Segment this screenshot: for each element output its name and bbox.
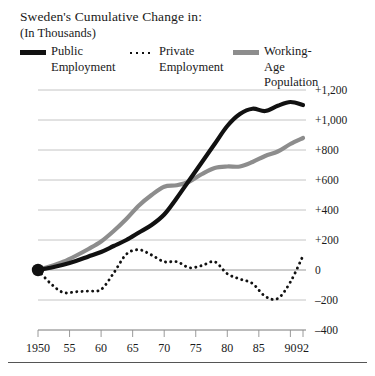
chart-x-axis-ticks (38, 330, 303, 337)
line-chart-svg: +1,200+1,000+800+600+400+2000–200–400 19… (0, 0, 375, 376)
x-axis-tick-label: 80 (221, 341, 233, 355)
x-axis-tick-label: 90 (284, 341, 296, 355)
y-axis-tick-label: –200 (314, 294, 338, 306)
chart-origin-marker (32, 264, 44, 276)
y-axis-tick-label: +400 (315, 204, 339, 216)
y-axis-tick-label: 0 (315, 264, 321, 276)
x-axis-tick-label: 70 (158, 341, 170, 355)
y-axis-tick-label: –400 (314, 324, 338, 336)
y-axis-tick-label: +800 (315, 144, 339, 156)
x-axis-tick-label: 85 (253, 341, 265, 355)
chart-x-axis-labels: 1950556065707580859092 (26, 341, 309, 355)
chart-y-axis-labels: +1,200+1,000+800+600+400+2000–200–400 (314, 84, 348, 336)
origin-marker-dot (32, 264, 44, 276)
chart-page: Sweden's Cumulative Change in: (In Thous… (0, 0, 375, 376)
x-axis-tick-label: 1950 (26, 341, 50, 355)
x-axis-tick-label: 65 (127, 341, 139, 355)
y-axis-tick-label: +600 (315, 174, 339, 186)
footer-divider (8, 362, 367, 363)
x-axis-tick-label: 55 (64, 341, 76, 355)
chart-gridlines (38, 90, 306, 330)
y-axis-tick-label: +1,200 (315, 84, 348, 97)
chart-plot-area: +1,200+1,000+800+600+400+2000–200–400 19… (0, 0, 375, 376)
x-axis-tick-label: 75 (190, 341, 202, 355)
chart-series-layer (38, 102, 306, 330)
series-line-private-employment (38, 250, 303, 300)
x-axis-tick-label: 60 (95, 341, 107, 355)
y-axis-tick-label: +1,000 (315, 114, 348, 127)
x-axis-tick-label: 92 (297, 341, 309, 355)
y-axis-tick-label: +200 (315, 234, 339, 246)
